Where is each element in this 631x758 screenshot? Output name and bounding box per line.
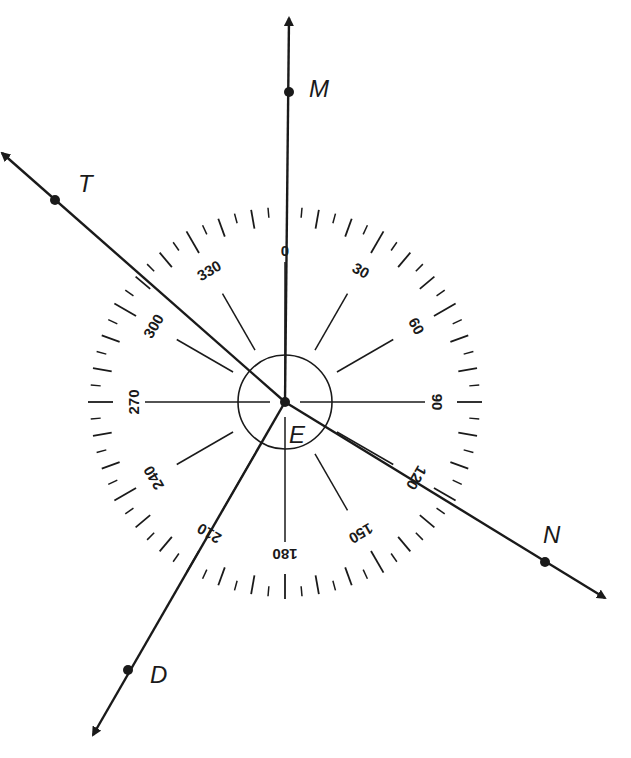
dial-tick-30 (371, 231, 384, 253)
degree-label-60: 60 (405, 315, 428, 338)
dial-tick-100 (458, 433, 477, 436)
dial-tick-70 (450, 335, 468, 341)
dial-tick-185 (268, 586, 269, 596)
dial-tick-250 (102, 462, 120, 468)
dial-tick-85 (469, 385, 479, 386)
degree-label-270: 270 (125, 389, 142, 414)
dial-tick-160 (345, 567, 351, 585)
dial-tick-175 (301, 586, 302, 596)
point-label-T: T (78, 170, 95, 197)
degree-label-180: 180 (272, 546, 297, 563)
ray-EN (285, 402, 605, 598)
dial-tick-355 (268, 208, 269, 218)
degree-label-30: 30 (350, 259, 373, 282)
dial-tick-235 (125, 508, 133, 514)
dial-tick-190 (251, 575, 254, 594)
dial-tick-5 (301, 208, 302, 218)
dial-spoke-330 (223, 294, 256, 350)
dial-tick-60 (434, 304, 456, 317)
dial-tick-20 (345, 219, 351, 237)
point-label-N: N (543, 521, 561, 548)
dial-tick-290 (102, 335, 120, 341)
dial-tick-25 (363, 225, 367, 234)
dial-tick-320 (160, 253, 172, 268)
dial-tick-150 (371, 551, 384, 573)
dial-tick-55 (437, 290, 445, 296)
dial-tick-285 (97, 352, 107, 355)
dial-tick-340 (218, 219, 224, 237)
dial-tick-330 (187, 231, 200, 253)
vertex-label-E: E (289, 421, 306, 448)
dial-spoke-30 (315, 294, 348, 350)
dial-tick-105 (464, 450, 474, 453)
dial-tick-335 (203, 225, 207, 234)
point-M (284, 87, 294, 97)
dial-tick-40 (398, 253, 410, 268)
compass-diagram: 0306090120150180210240270300330 MNDT E (0, 0, 631, 758)
dial-tick-345 (235, 214, 238, 224)
dial-spoke-150 (315, 454, 348, 510)
dial-tick-230 (136, 515, 151, 527)
dial-tick-125 (437, 508, 445, 514)
dial-tick-215 (173, 554, 179, 562)
dial-tick-265 (91, 418, 101, 419)
dial-tick-195 (235, 581, 238, 591)
dial-tick-115 (453, 480, 462, 484)
dial-tick-15 (333, 214, 336, 224)
dial-tick-110 (450, 462, 468, 468)
dial-tick-315 (147, 264, 154, 271)
degree-label-0: 0 (281, 242, 289, 259)
dial-spoke-240 (177, 432, 233, 465)
dial-tick-10 (316, 210, 319, 229)
dial-tick-35 (391, 242, 397, 250)
point-N (540, 557, 550, 567)
dial-tick-240 (114, 488, 136, 501)
dial-tick-135 (416, 533, 423, 540)
dial-spoke-300 (177, 340, 233, 373)
dial-tick-50 (420, 277, 435, 289)
dial-tick-65 (453, 320, 462, 324)
rays: MNDT (2, 18, 605, 735)
ray-ET (2, 153, 285, 402)
point-label-M: M (309, 75, 329, 102)
dial-spoke-120 (337, 432, 393, 465)
point-label-D: D (150, 661, 167, 688)
dial-tick-200 (218, 567, 224, 585)
degree-label-150: 150 (346, 520, 376, 547)
ray-EM (285, 18, 289, 402)
dial-tick-305 (125, 290, 133, 296)
dial-tick-255 (97, 450, 107, 453)
dial-tick-140 (398, 537, 410, 552)
point-D (123, 665, 133, 675)
dial-spoke-60 (337, 340, 393, 373)
dial-tick-145 (391, 554, 397, 562)
dial-tick-80 (458, 368, 477, 371)
dial-tick-130 (420, 515, 435, 527)
dial-tick-245 (108, 480, 117, 484)
dial-tick-165 (333, 581, 336, 591)
degree-label-330: 330 (194, 257, 224, 284)
dial-tick-155 (363, 570, 367, 579)
dial-tick-280 (93, 368, 112, 371)
dial-tick-225 (147, 533, 154, 540)
degree-label-300: 300 (140, 311, 167, 341)
dial-tick-275 (91, 385, 101, 386)
dial-tick-300 (114, 304, 136, 317)
dial-tick-95 (469, 418, 479, 419)
dial-tick-170 (316, 575, 319, 594)
dial-tick-45 (416, 264, 423, 271)
dial-tick-260 (93, 433, 112, 436)
degree-label-90: 90 (429, 394, 446, 411)
degree-label-240: 240 (140, 463, 167, 493)
ray-ED (93, 402, 285, 735)
dial-tick-325 (173, 242, 179, 250)
dial-tick-295 (108, 320, 117, 324)
dial-tick-205 (203, 570, 207, 579)
dial-tick-350 (251, 210, 254, 229)
dial-tick-220 (160, 537, 172, 552)
dial-tick-75 (464, 352, 474, 355)
point-T (50, 195, 60, 205)
vertex-point-E (280, 397, 290, 407)
